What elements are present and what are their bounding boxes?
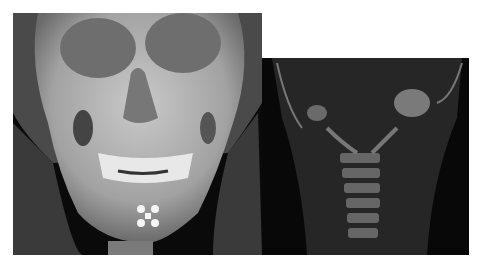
skull-3d-rendering-panel bbox=[13, 13, 262, 255]
cervical-spine-ct-panel bbox=[262, 58, 469, 255]
spine-ct-image bbox=[262, 58, 469, 255]
skull-rendering-image bbox=[13, 13, 262, 255]
